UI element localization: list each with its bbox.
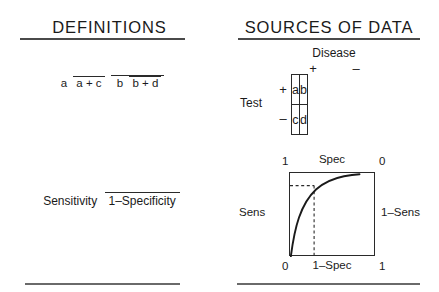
sensitivity-specificity-fraction: Sensitivity 1–Specificity	[39, 195, 180, 208]
sources-header-rule	[238, 38, 420, 40]
page-title-sources-of-data: SOURCES OF DATA	[219, 18, 439, 37]
sources-footer-rule	[237, 283, 420, 285]
false-positive-inner-denominator: b + d	[129, 76, 161, 89]
roc-bottom-right-tick: 1	[379, 260, 385, 272]
roc-bottom-left-tick: 0	[282, 260, 288, 272]
table-cell-true-negative: d	[299, 105, 307, 135]
sensitivity-specificity-formula: Sensitivity 1–Specificity	[0, 194, 219, 209]
likelihood-ratio-numerator: a a + c	[55, 76, 111, 89]
false-positive-inner-fraction: b b + d	[114, 77, 162, 90]
table-row-group-label: Test	[240, 96, 262, 110]
roc-plot-area	[289, 172, 375, 256]
definitions-panel: DEFINITIONS a a + c b b + d Sensitivity …	[0, 0, 219, 292]
false-positive-inner-numerator: b	[114, 77, 126, 89]
roc-top-left-tick: 1	[282, 155, 288, 167]
sensitivity-inner-fraction: a a + c	[58, 77, 105, 90]
contingency-table: a b c d	[291, 74, 308, 135]
likelihood-ratio-outer-fraction: a a + c b b + d	[55, 76, 165, 89]
table-column-header-negative: –	[346, 61, 366, 76]
roc-top-right-tick: 0	[379, 155, 385, 167]
table-cell-false-positive: b	[299, 75, 307, 105]
sensitivity-inner-numerator: a	[58, 77, 70, 89]
one-minus-specificity-label: 1–Specificity	[105, 192, 180, 208]
roc-right-axis-label: 1–Sens	[381, 206, 420, 218]
table-row: c d	[292, 105, 308, 135]
roc-curve-svg	[290, 173, 376, 257]
definitions-footer-rule	[25, 283, 180, 285]
definitions-header-rule	[20, 38, 185, 40]
page-title-definitions: DEFINITIONS	[0, 18, 219, 37]
table-column-group-label: Disease	[291, 46, 377, 60]
table-cell-true-positive: a	[292, 75, 300, 105]
table-cell-false-negative: c	[292, 105, 300, 135]
roc-curve-path	[291, 174, 360, 256]
roc-top-axis-label: Spec	[289, 153, 375, 165]
roc-left-axis-label: Sens	[239, 206, 265, 218]
table-row-header-positive: +	[276, 82, 290, 97]
roc-bottom-axis-label: 1–Spec	[289, 259, 375, 271]
sources-of-data-panel: SOURCES OF DATA Disease + – Test + – a b…	[219, 0, 439, 292]
sensitivity-label: Sensitivity	[39, 194, 101, 209]
table-row: a b	[292, 75, 308, 105]
likelihood-ratio-formula: a a + c b b + d	[0, 76, 219, 90]
table-row-header-negative: –	[276, 111, 290, 126]
likelihood-ratio-denominator: b b + d	[111, 75, 165, 89]
sensitivity-inner-denominator: a + c	[73, 76, 104, 89]
